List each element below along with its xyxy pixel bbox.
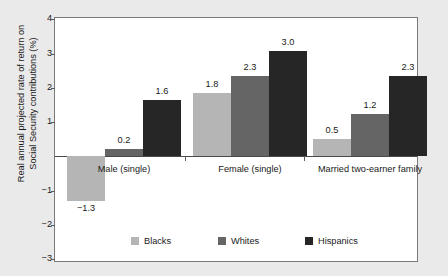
bar-value-female-hispanics: 3.0 — [282, 37, 295, 47]
bar-value-female-blacks: 1.8 — [206, 79, 219, 89]
y-tick-mark — [51, 88, 55, 89]
chart-figure: Real annual projected rate of return on … — [0, 0, 448, 276]
legend-label-whites: Whites — [231, 236, 259, 246]
y-tick-mark — [51, 191, 55, 192]
zero-baseline — [55, 156, 417, 157]
bar-female-blacks — [193, 93, 231, 156]
bar-male-blacks — [67, 156, 105, 201]
x-group-label-female: Female (single) — [218, 164, 281, 174]
y-tick-label: 2 — [36, 82, 52, 92]
y-tick-label: 1 — [36, 116, 52, 126]
x-tick-mark — [185, 156, 186, 161]
bar-married-blacks — [313, 139, 351, 156]
y-tick-mark — [51, 225, 55, 226]
bar-female-hispanics — [269, 51, 307, 156]
bar-value-male-hispanics: 1.6 — [156, 86, 169, 96]
legend-swatch-hispanics — [305, 237, 313, 245]
plot-area: −1.3 0.2 1.6 Male (single) 1.8 2.3 3.0 F… — [54, 17, 418, 262]
y-tick-mark — [51, 54, 55, 55]
bar-value-female-whites: 2.3 — [244, 62, 257, 72]
bar-value-married-whites: 1.2 — [364, 100, 377, 110]
bar-value-married-blacks: 0.5 — [326, 125, 339, 135]
bar-male-hispanics — [143, 100, 181, 156]
x-group-label-married: Married two-earner family — [318, 164, 422, 174]
bar-value-married-hispanics: 2.3 — [402, 62, 415, 72]
legend-label-hispanics: Hispanics — [318, 236, 358, 246]
bar-value-male-whites: 0.2 — [118, 135, 131, 145]
y-axis-tick-labels: 4 3 2 1 −1 −2 −3 — [32, 0, 52, 276]
bar-married-hispanics — [389, 76, 427, 156]
legend-swatch-blacks — [131, 237, 139, 245]
y-tick-label: −1 — [36, 185, 52, 195]
bar-male-whites — [105, 149, 143, 156]
y-tick-mark — [51, 19, 55, 20]
y-tick-label: −3 — [36, 253, 52, 263]
legend-label-blacks: Blacks — [144, 236, 171, 246]
x-group-label-male: Male (single) — [98, 164, 151, 174]
bar-female-whites — [231, 76, 269, 156]
y-tick-label: 3 — [36, 48, 52, 58]
y-tick-mark — [51, 122, 55, 123]
x-tick-mark — [304, 156, 305, 161]
y-tick-label: 4 — [36, 13, 52, 23]
y-tick-label: −2 — [36, 219, 52, 229]
legend-item-blacks: Blacks — [131, 236, 171, 246]
bar-married-whites — [351, 114, 389, 156]
legend-swatch-whites — [218, 237, 226, 245]
y-tick-mark — [51, 259, 55, 260]
legend-item-whites: Whites — [218, 236, 259, 246]
legend-item-hispanics: Hispanics — [305, 236, 358, 246]
bar-value-male-blacks: −1.3 — [77, 203, 95, 213]
